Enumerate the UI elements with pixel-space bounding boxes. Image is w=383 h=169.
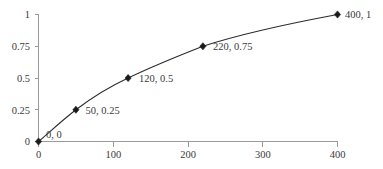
data-point-marker-1 [73,106,79,113]
x-tick-label-200: 200 [180,149,196,160]
x-tick-label-400: 400 [330,149,346,160]
y-tick-label-1: 1 [25,9,30,20]
y-tick-label-0: 0 [25,136,30,147]
data-point-marker-4 [334,11,340,18]
y-tick-label-025: 0.25 [12,105,30,116]
line-chart-plot: 1 0.75 0.5 0.25 0 0 100 200 300 400 0, 0… [0,0,383,169]
data-point-label-1: 50, 0.25 [86,105,120,116]
data-point-label-0: 0, 0 [46,129,62,140]
x-tick-label-100: 100 [105,149,121,160]
chart-container: 1 0.75 0.5 0.25 0 0 100 200 300 400 0, 0… [0,0,383,169]
data-point-marker-2 [125,74,131,81]
y-tick-label-075: 0.75 [12,41,30,52]
data-point-label-4: 400, 1 [345,9,371,20]
data-point-marker-3 [200,43,206,50]
y-tick-label-05: 0.5 [17,73,30,84]
data-series-line [39,15,338,142]
data-point-label-2: 120, 0.5 [139,73,173,84]
data-point-label-3: 220, 0.75 [213,41,252,52]
x-tick-label-0: 0 [36,149,41,160]
x-tick-label-300: 300 [255,149,271,160]
